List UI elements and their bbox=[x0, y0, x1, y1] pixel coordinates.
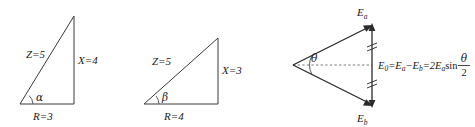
triangle-outline-alpha bbox=[20, 16, 74, 104]
figure-canvas: Z=5 X=4 R=3 α Z=5 X=3 R=4 β bbox=[0, 0, 475, 126]
angle-arc-alpha bbox=[29, 96, 33, 104]
angle-symbol-theta: θ bbox=[311, 52, 318, 64]
label-vertical-alpha: X=4 bbox=[77, 54, 98, 66]
formula-inline-text: E0=Ea−Eb=2Easin bbox=[377, 60, 458, 73]
label-vector-eb: Eb bbox=[356, 112, 368, 126]
fraction-numerator-theta: θ bbox=[461, 52, 468, 64]
label-base-beta: R=4 bbox=[163, 110, 184, 122]
label-vertical-beta: X=3 bbox=[221, 64, 242, 76]
label-vector-ea: Ea bbox=[356, 6, 368, 21]
triangle-outline-beta bbox=[144, 38, 218, 104]
fraction-denominator-2: 2 bbox=[461, 67, 466, 78]
angle-symbol-beta: β bbox=[161, 91, 168, 103]
phasor-difference-diagram: θ Ea Eb E0=Ea−Eb=2Easin θ 2 bbox=[293, 6, 470, 126]
figure-svg: Z=5 X=4 R=3 α Z=5 X=3 R=4 β bbox=[0, 0, 475, 126]
label-hypotenuse-beta: Z=5 bbox=[152, 55, 172, 67]
vector-ea-line bbox=[293, 27, 369, 65]
formula-expression: E0=Ea−Eb=2Easin θ 2 bbox=[377, 52, 470, 78]
formula-fraction-theta-over-2: θ 2 bbox=[458, 52, 470, 78]
label-base-alpha: R=3 bbox=[32, 110, 53, 122]
label-vector-ea-sub: a bbox=[364, 12, 368, 21]
formula-sin-function: sin bbox=[445, 60, 458, 71]
angle-symbol-alpha: α bbox=[36, 91, 43, 103]
formula-equals-2: = bbox=[423, 60, 430, 71]
formula-minus: − bbox=[405, 60, 412, 71]
impedance-triangle-beta: Z=5 X=3 R=4 β bbox=[144, 38, 242, 122]
label-hypotenuse-alpha: Z=5 bbox=[26, 48, 46, 60]
formula-coefficient: 2E bbox=[430, 60, 442, 71]
angle-arc-beta bbox=[156, 96, 159, 104]
vector-eb-line bbox=[293, 65, 369, 103]
label-vector-eb-sub: b bbox=[364, 118, 368, 127]
formula-equals-1: = bbox=[388, 60, 395, 71]
impedance-triangle-alpha: Z=5 X=4 R=3 α bbox=[20, 16, 98, 122]
